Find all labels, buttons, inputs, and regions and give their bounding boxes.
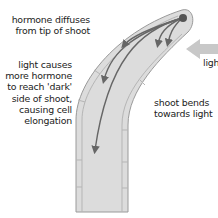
- light-label: light: [203, 57, 218, 68]
- shoot-tip-dot: [179, 14, 187, 22]
- light-arrow: [186, 39, 218, 59]
- bend-label: shoot bends towards light: [154, 97, 213, 119]
- hormone-label: hormone diffuses from tip of shoot: [0, 14, 90, 36]
- light-effect-label: light causes more hormone to reach 'dark…: [0, 59, 72, 126]
- phototropism-diagram: hormone diffuses from tip of shoot light…: [0, 0, 218, 218]
